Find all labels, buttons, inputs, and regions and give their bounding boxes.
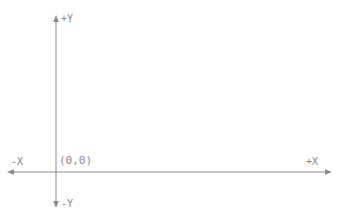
origin-label: (0,0) <box>59 155 92 166</box>
y-axis-up-arrowhead <box>53 15 59 22</box>
y-axis-group <box>53 15 59 208</box>
axis-label-positive-y: +Y <box>61 14 73 24</box>
axis-label-negative-x: -X <box>11 157 23 167</box>
y-axis-down-arrowhead <box>53 201 59 208</box>
cartesian-axes-diagram: +Y -Y -X +X (0,0) <box>0 0 341 224</box>
axis-label-negative-y: -Y <box>61 199 73 209</box>
x-axis-left-arrowhead <box>7 169 14 175</box>
axes-drawing <box>0 0 341 224</box>
x-axis-right-arrowhead <box>325 169 332 175</box>
axis-label-positive-x: +X <box>306 157 318 167</box>
